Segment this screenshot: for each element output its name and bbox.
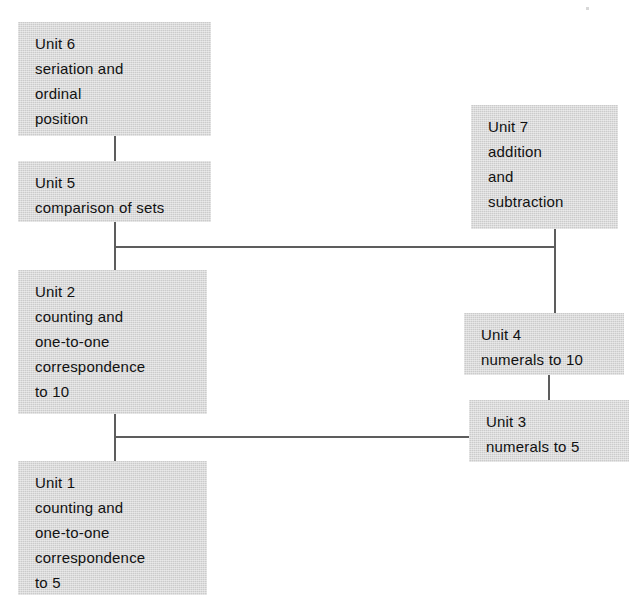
unit-3-line-1: Unit 3 — [486, 409, 629, 434]
unit-4-line-1: Unit 4 — [481, 322, 624, 347]
unit-1-line-1: Unit 1 — [35, 470, 207, 495]
unit-6-line-4: position — [35, 106, 211, 131]
scan-artifact-speck — [586, 7, 589, 10]
unit-1-line-2: counting and — [35, 495, 207, 520]
unit-2-line-1: Unit 2 — [35, 279, 207, 304]
unit-1-line-3: one-to-one — [35, 520, 207, 545]
connector-unit6-to-unit5 — [114, 136, 116, 161]
unit-box-unit-1[interactable]: Unit 1 counting and one-to-one correspon… — [18, 461, 207, 595]
unit-3-line-2: numerals to 5 — [486, 434, 629, 459]
unit-box-unit-2[interactable]: Unit 2 counting and one-to-one correspon… — [18, 270, 207, 414]
unit-box-unit-5[interactable]: Unit 5 comparison of sets — [18, 161, 211, 222]
unit-2-line-3: one-to-one — [35, 329, 207, 354]
unit-2-line-5: to 10 — [35, 379, 207, 404]
connector-unit2-to-unit3 — [114, 436, 471, 438]
unit-6-line-1: Unit 6 — [35, 31, 211, 56]
unit-7-line-1: Unit 7 — [488, 114, 618, 139]
unit-box-unit-3[interactable]: Unit 3 numerals to 5 — [469, 400, 629, 462]
unit-4-line-2: numerals to 10 — [481, 347, 624, 372]
unit-box-unit-4[interactable]: Unit 4 numerals to 10 — [464, 313, 624, 375]
connector-unit4-to-unit3 — [548, 375, 550, 401]
connector-unit5-to-unit7 — [114, 246, 556, 248]
unit-5-line-2: comparison of sets — [35, 195, 211, 220]
connector-unit7-to-unit4 — [554, 229, 556, 314]
unit-5-line-1: Unit 5 — [35, 170, 211, 195]
unit-7-line-2: addition — [488, 139, 618, 164]
unit-7-line-4: subtraction — [488, 189, 618, 214]
unit-2-line-4: correspondence — [35, 354, 207, 379]
unit-box-unit-7[interactable]: Unit 7 addition and subtraction — [471, 105, 618, 229]
unit-6-line-3: ordinal — [35, 81, 211, 106]
unit-6-line-2: seriation and — [35, 56, 211, 81]
unit-1-line-5: to 5 — [35, 570, 207, 595]
unit-2-line-2: counting and — [35, 304, 207, 329]
unit-7-line-3: and — [488, 164, 618, 189]
unit-1-line-4: correspondence — [35, 545, 207, 570]
diagram-canvas: Unit 6 seriation and ordinal position Un… — [0, 0, 635, 608]
unit-box-unit-6[interactable]: Unit 6 seriation and ordinal position — [18, 22, 211, 136]
